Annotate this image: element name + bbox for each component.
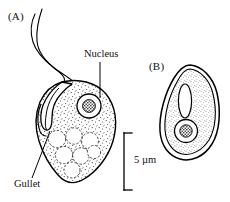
panel-b-tag: (B) — [149, 61, 164, 72]
flagella-group — [31, 9, 74, 82]
nucleus-label: Nucleus — [84, 49, 118, 60]
cyst-vacuole — [178, 84, 191, 118]
cytoplasm-b — [160, 64, 222, 160]
panel-b-drawing — [160, 64, 222, 160]
figure-root: (A) Nucleus Gullet (B) 5 µm — [0, 0, 230, 202]
figure-canvas — [0, 0, 230, 202]
gullet-label: Gullet — [14, 179, 40, 190]
food-vacuole — [73, 148, 89, 164]
nucleus-b — [175, 120, 198, 143]
karyosome-a — [83, 100, 96, 113]
food-vacuole — [87, 145, 100, 158]
karyosome-b — [180, 125, 192, 137]
food-vacuole — [64, 162, 80, 178]
flagellum-2 — [37, 9, 74, 82]
scale-bar-label: 5 µm — [134, 155, 156, 166]
panel-a-drawing — [30, 9, 126, 186]
nucleus-a — [77, 94, 101, 118]
scale-bar — [124, 133, 132, 190]
food-vacuole — [66, 128, 82, 144]
panel-a-tag: (A) — [8, 11, 24, 22]
food-vacuole — [55, 146, 72, 163]
food-vacuole — [48, 130, 65, 147]
